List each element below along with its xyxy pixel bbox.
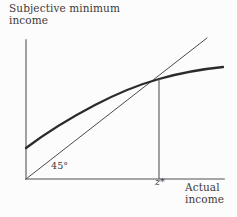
y-axis-label: Subjective minimum income: [9, 3, 120, 26]
z-star-tick-label: z*: [155, 176, 165, 188]
x-axis-label: Actual income: [185, 182, 224, 205]
subjective-minimum-income-figure: Subjective minimum income Actual income …: [0, 0, 237, 217]
x-axis-label-line1: Actual: [185, 182, 224, 194]
forty-five-degree-label: 45°: [51, 160, 68, 172]
x-axis-label-line2: income: [185, 194, 224, 206]
y-axis-label-line2: income: [9, 15, 120, 27]
y-axis-label-line1: Subjective minimum: [9, 3, 120, 15]
forty-five-degree-line: [26, 38, 207, 179]
subjective-minimum-income-curve: [26, 67, 223, 148]
